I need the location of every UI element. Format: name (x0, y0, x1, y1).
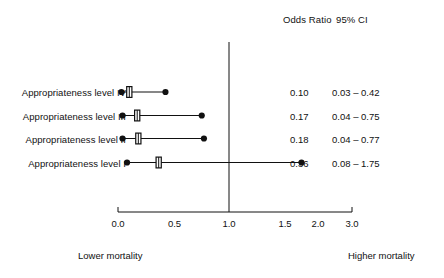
ci-lower-endpoint-marker (119, 112, 125, 118)
forest-row (124, 157, 305, 168)
footer-label-lower-mortality: Lower mortality (78, 250, 142, 261)
ci-upper-endpoint-marker (162, 89, 168, 95)
forest-row (119, 110, 204, 121)
x-axis-tick-label: 0.0 (111, 218, 124, 229)
ci-lower-endpoint-marker (118, 89, 124, 95)
x-axis-tick-label: 2.0 (311, 218, 324, 229)
x-axis-tick-label: 0.5 (168, 218, 181, 229)
ci-lower-endpoint-marker (124, 159, 130, 165)
forest-plot-figure: Odds Ratio 95% CI Appropriateness level … (0, 0, 444, 278)
x-axis-tick-label: 1.5 (278, 218, 291, 229)
ci-lower-endpoint-marker (119, 135, 125, 141)
ci-upper-endpoint-marker (199, 112, 205, 118)
x-axis-tick-label: 1.0 (222, 218, 235, 229)
x-axis-tick-label: 3.0 (345, 218, 358, 229)
footer-label-higher-mortality: Higher mortality (348, 250, 415, 261)
ci-upper-endpoint-marker (298, 159, 304, 165)
ci-upper-endpoint-marker (201, 135, 207, 141)
forest-row (119, 133, 207, 144)
forest-row (118, 87, 168, 98)
plot-canvas (0, 0, 444, 278)
